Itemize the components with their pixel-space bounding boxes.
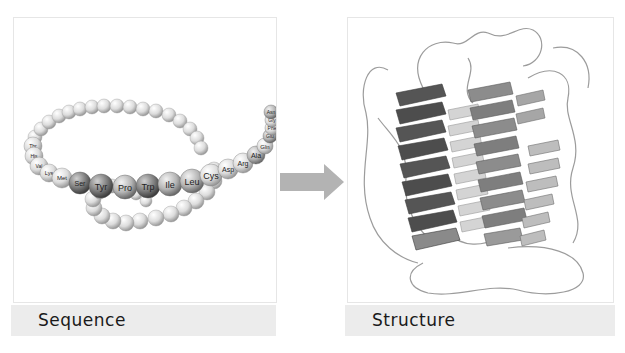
svg-text:Tyr: Tyr bbox=[95, 182, 108, 192]
structure-caption: Structure bbox=[372, 305, 456, 336]
helix-dark bbox=[396, 84, 460, 250]
svg-text:Met: Met bbox=[57, 175, 67, 181]
svg-text:Lys: Lys bbox=[45, 170, 54, 176]
svg-text:Pro: Pro bbox=[118, 183, 132, 193]
helix-right bbox=[516, 90, 560, 246]
right-arrow-icon bbox=[278, 162, 348, 202]
svg-text:Ala: Ala bbox=[251, 152, 261, 159]
svg-text:Ile: Ile bbox=[165, 180, 175, 190]
svg-text:Gln: Gln bbox=[260, 144, 269, 150]
sequence-bead-chain-illustration: Thr His Val Lys Met Ser Tyr Pro Trp Ile … bbox=[14, 18, 276, 302]
svg-text:Leu: Leu bbox=[184, 177, 199, 187]
svg-text:Cys: Cys bbox=[203, 171, 219, 181]
sequence-panel: Thr His Val Lys Met Ser Tyr Pro Trp Ile … bbox=[13, 17, 277, 303]
sequence-caption: Sequence bbox=[38, 305, 126, 336]
structure-panel bbox=[347, 17, 614, 303]
svg-text:Asn: Asn bbox=[267, 109, 276, 115]
structure-caption-band: Structure bbox=[345, 305, 615, 336]
sequence-caption-band: Sequence bbox=[11, 305, 276, 336]
svg-text:Asp: Asp bbox=[222, 166, 234, 174]
svg-text:Arg: Arg bbox=[238, 160, 249, 168]
svg-text:Ser: Ser bbox=[75, 180, 87, 187]
svg-text:Trp: Trp bbox=[141, 182, 154, 192]
upper-loop-beads bbox=[28, 99, 222, 178]
folded-helix-structure-illustration bbox=[348, 18, 613, 302]
